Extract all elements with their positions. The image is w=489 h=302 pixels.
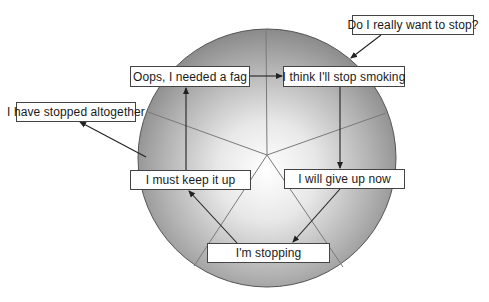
node-label: I will give up now bbox=[298, 172, 391, 186]
node-precontemplation: Do I really want to stop? bbox=[352, 15, 474, 35]
node-preparation: I will give up now bbox=[284, 169, 405, 189]
node-label: I must keep it up bbox=[146, 173, 236, 187]
node-label: I'm stopping bbox=[236, 246, 302, 260]
node-action: I'm stopping bbox=[207, 243, 330, 263]
arrow-circle-to-exit bbox=[80, 122, 146, 157]
node-exit: I have stopped altogether bbox=[16, 102, 136, 122]
node-label: I have stopped altogether bbox=[7, 105, 145, 119]
node-maintenance: I must keep it up bbox=[130, 170, 251, 190]
node-relapse: Oops, I needed a fag bbox=[130, 66, 250, 87]
node-label: Do I really want to stop? bbox=[347, 18, 478, 32]
node-contemplation: I think I'll stop smoking bbox=[283, 66, 405, 87]
arrow-precontemplation-to-circle bbox=[351, 35, 381, 58]
node-label: I think I'll stop smoking bbox=[283, 70, 406, 84]
node-label: Oops, I needed a fag bbox=[133, 70, 247, 84]
